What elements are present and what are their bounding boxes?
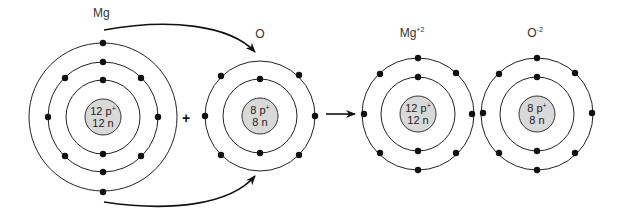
atom-label-o: O bbox=[255, 27, 264, 41]
ion-mg: Mg+2 12 p+ 12 n bbox=[361, 26, 475, 173]
electron-transfer-arrow-top bbox=[104, 24, 255, 52]
atom-o: O 8 p+ 8 n bbox=[202, 27, 318, 171]
nucleus-neutrons: 8 n bbox=[529, 114, 544, 126]
ionic-bond-diagram: Mg 12 p+ 12 n + O 8 p+ 8 n bbox=[0, 0, 627, 219]
plus-sign: + bbox=[182, 110, 190, 126]
ion-o: O-2 8 p+ 8 n bbox=[480, 26, 595, 173]
nucleus-neutrons: 12 n bbox=[92, 117, 113, 129]
atom-label-mg: Mg bbox=[93, 6, 110, 20]
atom-mg: Mg 12 p+ 12 n bbox=[29, 6, 177, 195]
electron-transfer-arrow-bottom bbox=[104, 176, 255, 206]
ion-label-o: O-2 bbox=[527, 26, 543, 40]
nucleus-neutrons: 12 n bbox=[407, 114, 428, 126]
nucleus-neutrons: 8 n bbox=[252, 116, 267, 128]
ion-label-mg: Mg+2 bbox=[400, 26, 425, 40]
